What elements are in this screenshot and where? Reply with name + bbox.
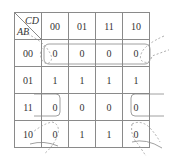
row-header: 01 <box>15 67 42 94</box>
col-header: 11 <box>96 13 123 40</box>
row-header: 10 <box>15 121 42 148</box>
kmap-cell: 1 <box>96 121 123 148</box>
row-variable-label: AB <box>17 26 29 37</box>
kmap-cell: 0 <box>96 94 123 121</box>
row-header: 11 <box>15 94 42 121</box>
kmap-cell: 0 <box>123 40 150 67</box>
col-variable-label: CD <box>25 15 39 26</box>
header-row: CD AB 00 01 11 10 <box>15 13 150 40</box>
kmap-row: 00 0 0 0 0 <box>15 40 150 67</box>
kmap-cell: 0 <box>42 40 69 67</box>
kmap-cell: 1 <box>123 67 150 94</box>
kmap-cell: 1 <box>42 67 69 94</box>
kmap-row: 01 1 1 1 1 <box>15 67 150 94</box>
col-header: 10 <box>123 13 150 40</box>
kmap-cell: 0 <box>123 94 150 121</box>
corner-cell: CD AB <box>15 13 42 40</box>
kmap-grid: CD AB 00 01 11 10 00 0 0 0 0 01 1 1 1 1 … <box>14 12 150 148</box>
karnaugh-map: CD AB 00 01 11 10 00 0 0 0 0 01 1 1 1 1 … <box>14 12 151 148</box>
kmap-cell: 0 <box>42 94 69 121</box>
kmap-cell: 1 <box>69 67 96 94</box>
col-header: 00 <box>42 13 69 40</box>
kmap-cell: 0 <box>123 121 150 148</box>
kmap-cell: 0 <box>69 94 96 121</box>
col-header: 01 <box>69 13 96 40</box>
kmap-row: 11 0 0 0 0 <box>15 94 150 121</box>
kmap-cell: 0 <box>96 40 123 67</box>
row-header: 00 <box>15 40 42 67</box>
kmap-cell: 1 <box>69 121 96 148</box>
kmap-row: 10 0 1 1 0 <box>15 121 150 148</box>
kmap-cell: 0 <box>69 40 96 67</box>
kmap-cell: 0 <box>42 121 69 148</box>
kmap-cell: 1 <box>96 67 123 94</box>
